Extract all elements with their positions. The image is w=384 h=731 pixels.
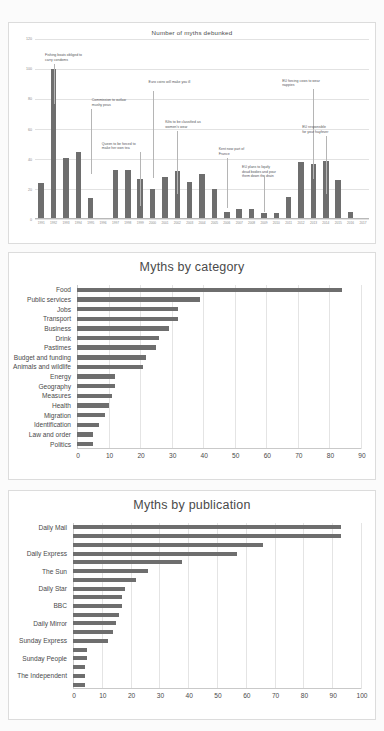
category-label-row: Daily Express	[9, 549, 71, 558]
bar-slot	[97, 39, 109, 219]
category-label: Daily Mirror	[33, 620, 71, 627]
category-label: Geography	[38, 383, 75, 390]
x-axis-tick: 2004	[196, 221, 208, 239]
category-label: Sunday Express	[19, 637, 71, 644]
bar	[73, 639, 108, 643]
category-label-row	[9, 610, 71, 619]
bar	[77, 307, 178, 311]
bar-row	[77, 324, 361, 334]
x-axis-tick: 1991	[35, 221, 47, 239]
y-axis-tick-label: 80	[28, 97, 32, 101]
annotation-leader-line	[227, 158, 228, 208]
x-axis-tick-label: 1997	[112, 221, 119, 225]
bar	[77, 384, 115, 388]
category-label-row: Geography	[13, 381, 75, 391]
bar	[73, 552, 237, 556]
bar-slot	[35, 39, 47, 219]
category-label: The Sun	[42, 568, 71, 575]
x-axis-tick-label: 1993	[62, 221, 69, 225]
category-label-row	[9, 593, 71, 602]
category-label-row: Identification	[13, 420, 75, 430]
bar-row	[73, 549, 361, 558]
category-label-row: Jobs	[13, 304, 75, 314]
bar-row	[77, 314, 361, 324]
category-label: Animals and wildlife	[13, 363, 75, 370]
category-label-row: Migration	[13, 410, 75, 420]
category-label-row	[9, 540, 71, 549]
chart-annotation: Euro coins will make you ill	[149, 80, 191, 85]
annotation-leader-line	[326, 136, 327, 194]
x-axis-tick: 2015	[332, 221, 344, 239]
bar	[335, 180, 341, 219]
bar	[73, 648, 87, 652]
x-axis-tick-label: 2003	[186, 221, 193, 225]
category-label: Public services	[27, 296, 75, 303]
bar	[76, 152, 82, 220]
category-label-row: Politics	[13, 439, 75, 449]
bar-row	[77, 410, 361, 420]
bar-row	[77, 295, 361, 305]
bar	[73, 674, 85, 678]
annotation-leader-line	[91, 109, 92, 174]
y-axis-tick-label: 0	[30, 218, 32, 222]
annotation-leader-line	[177, 131, 178, 194]
category-label: Daily Mail	[38, 524, 71, 531]
x-axis-tick-label: 2008	[248, 221, 255, 225]
chart-annotation: EU responsible for your hayfever	[302, 125, 328, 134]
y-axis-tick-label: 120	[26, 37, 32, 41]
bar	[73, 604, 122, 608]
chart-annotation: Fishing boats obliged to carry condoms	[45, 53, 82, 62]
chart-panel-myths-by-publication: Myths by publication Daily MailDaily Exp…	[8, 490, 376, 720]
x-axis-tick-label: 40	[201, 452, 208, 459]
gridline	[361, 285, 362, 449]
x-axis-tick-label: 2002	[174, 221, 181, 225]
bar	[73, 665, 85, 669]
x-axis-tick-label: 40	[186, 692, 193, 699]
x-axis-tick: 1996	[97, 221, 109, 239]
x-axis-tick-label: 2006	[223, 221, 230, 225]
bar	[77, 432, 93, 436]
bar-row	[73, 654, 361, 663]
category-label-row: The Independent	[9, 671, 71, 680]
bar	[77, 317, 178, 321]
bar	[125, 170, 131, 220]
plot-area-myths-by-category	[77, 285, 361, 449]
bar-row	[73, 567, 361, 576]
category-label: Daily Express	[27, 550, 71, 557]
bar	[73, 613, 119, 617]
bar-slot	[332, 39, 344, 219]
chart-annotation: EU plans to liquify dead bodies and pour…	[242, 165, 276, 179]
category-label-row: The Sun	[9, 567, 71, 576]
bar	[77, 423, 99, 427]
chart-title-myths-by-category: Myths by category	[9, 253, 375, 274]
category-label-row: Sunday Express	[9, 637, 71, 646]
chart-annotation: EU forcing cows to wear nappies	[282, 79, 320, 88]
x-axis-tick: 2012	[295, 221, 307, 239]
bar	[38, 183, 44, 219]
y-axis-tick-label: 60	[28, 128, 32, 132]
category-label: Food	[56, 286, 75, 293]
chart-annotation: Commission to outlaw mushy peas	[92, 98, 126, 107]
x-axis-tick-label: 30	[157, 692, 164, 699]
bar-slot	[208, 39, 220, 219]
x-axis-tick-label: 1996	[100, 221, 107, 225]
bar	[77, 326, 169, 330]
category-label-row: Transport	[13, 314, 75, 324]
chart-annotation: Queen to be forced to make her own tea	[102, 142, 136, 151]
bar-slot	[233, 39, 245, 219]
bar-row	[73, 610, 361, 619]
chart-annotation: Kent now part of France	[219, 147, 245, 156]
chart-title-myths-debunked: Number of myths debunked	[9, 23, 375, 36]
x-axis-tick: 2017	[357, 221, 369, 239]
bar	[113, 170, 119, 220]
bar	[73, 587, 125, 591]
x-axis-tick: 1997	[109, 221, 121, 239]
x-axis-tick: 2008	[245, 221, 257, 239]
bar-slot	[122, 39, 134, 219]
bar	[88, 198, 94, 219]
category-label: Budget and funding	[14, 354, 75, 361]
bar-slot	[357, 39, 369, 219]
x-axis-tick-label: 1992	[50, 221, 57, 225]
bar	[77, 374, 115, 378]
bar	[77, 413, 105, 417]
